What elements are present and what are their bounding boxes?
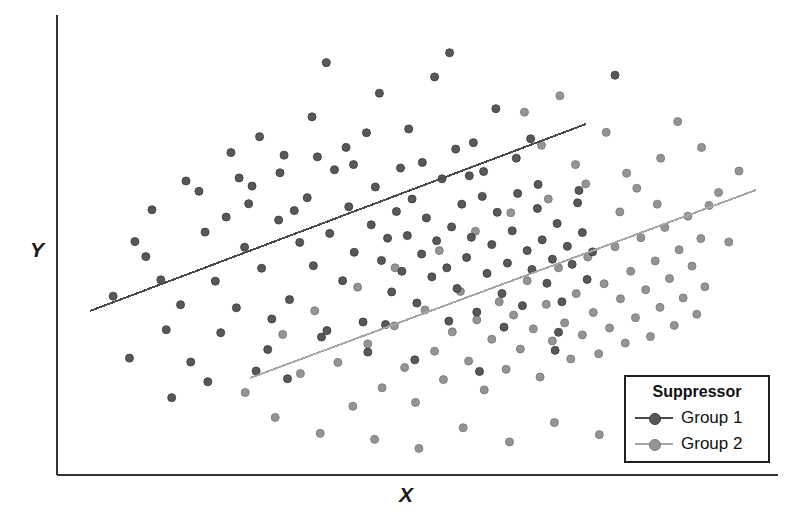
legend-box: Suppressor Group 1 Group 2 — [624, 375, 770, 463]
scatter-point — [318, 333, 326, 341]
scatter-plot-figure: Y X Suppressor Group 1 Group 2 — [0, 0, 803, 529]
legend-marker-group-1-icon — [633, 411, 675, 425]
scatter-point — [418, 158, 426, 166]
scatter-point — [555, 328, 563, 336]
scatter-point — [459, 424, 467, 432]
scatter-point — [543, 279, 551, 287]
scatter-point — [548, 255, 556, 263]
scatter-point — [563, 242, 571, 250]
trend-line-group-1 — [90, 124, 586, 311]
scatter-point — [339, 277, 347, 285]
scatter-point — [735, 167, 743, 175]
scatter-point — [364, 340, 372, 348]
scatter-point — [204, 378, 212, 386]
scatter-point — [131, 238, 139, 246]
scatter-point — [558, 298, 566, 306]
scatter-point — [627, 267, 635, 275]
scatter-point — [435, 247, 443, 255]
scatter-point — [512, 154, 520, 162]
scatter-point — [433, 237, 441, 245]
scatter-point — [653, 200, 661, 208]
scatter-point — [443, 264, 451, 272]
scatter-point — [308, 113, 316, 121]
scatter-point — [422, 214, 430, 222]
scatter-point — [364, 348, 372, 356]
legend-item-group-1[interactable]: Group 1 — [633, 405, 761, 431]
scatter-point — [453, 284, 461, 292]
scatter-point — [187, 358, 195, 366]
scatter-point — [296, 370, 304, 378]
scatter-point — [235, 174, 243, 182]
scatter-point — [388, 288, 396, 296]
scatter-point — [326, 229, 334, 237]
scatter-point — [248, 182, 256, 190]
scatter-point — [264, 346, 272, 354]
scatter-point — [538, 236, 546, 244]
scatter-point — [283, 375, 291, 383]
scatter-point — [510, 311, 518, 319]
scatter-point — [349, 402, 357, 410]
scatter-point — [536, 373, 544, 381]
scatter-point — [582, 180, 590, 188]
scatter-point — [271, 413, 279, 421]
scatter-point — [518, 302, 526, 310]
scatter-point — [377, 256, 385, 264]
legend-label-group-1: Group 1 — [681, 408, 742, 428]
scatter-point — [572, 161, 580, 169]
scatter-point — [542, 300, 550, 308]
scatter-point — [498, 290, 506, 298]
scatter-point — [342, 143, 350, 151]
scatter-point — [323, 327, 331, 335]
scatter-point — [646, 333, 654, 341]
scatter-point — [431, 347, 439, 355]
scatter-point — [715, 189, 723, 197]
scatter-point — [516, 345, 524, 353]
scatter-point — [623, 169, 631, 177]
scatter-point — [232, 304, 240, 312]
scatter-point — [469, 139, 477, 147]
scatter-point — [583, 275, 591, 283]
scatter-point — [589, 309, 597, 317]
scatter-point — [529, 325, 537, 333]
scatter-point — [125, 354, 133, 362]
scatter-point — [602, 128, 610, 136]
scatter-point — [350, 248, 358, 256]
scatter-point — [698, 143, 706, 151]
scatter-point — [311, 307, 319, 315]
scatter-point — [520, 108, 528, 116]
scatter-point — [567, 355, 575, 363]
scatter-point — [637, 234, 645, 242]
scatter-point — [488, 241, 496, 249]
scatter-point — [448, 328, 456, 336]
scatter-point — [256, 133, 264, 141]
scatter-point — [439, 376, 447, 384]
scatter-point — [483, 269, 491, 277]
scatter-point — [463, 253, 471, 261]
scatter-point — [473, 308, 481, 316]
scatter-point — [411, 356, 419, 364]
scatter-point — [574, 199, 582, 207]
scatter-point — [227, 149, 235, 157]
scatter-point — [606, 324, 614, 332]
scatter-point — [534, 180, 542, 188]
legend-item-group-2[interactable]: Group 2 — [633, 431, 761, 457]
scatter-point — [313, 153, 321, 161]
y-axis-label: Y — [30, 238, 44, 262]
scatter-point — [211, 277, 219, 285]
scatter-point — [492, 105, 500, 113]
scatter-point — [303, 194, 311, 202]
scatter-point — [412, 398, 420, 406]
scatter-point — [675, 246, 683, 254]
scatter-point — [375, 89, 383, 97]
scatter-point — [575, 186, 583, 194]
scatter-point — [688, 262, 696, 270]
scatter-point — [465, 357, 473, 365]
scatter-point — [431, 73, 439, 81]
scatter-point — [600, 280, 608, 288]
scatter-point — [280, 151, 288, 159]
scatter-point — [345, 203, 353, 211]
scatter-point — [397, 164, 405, 172]
scatter-point — [544, 195, 552, 203]
scatter-point — [275, 216, 283, 224]
scatter-point — [446, 49, 454, 57]
